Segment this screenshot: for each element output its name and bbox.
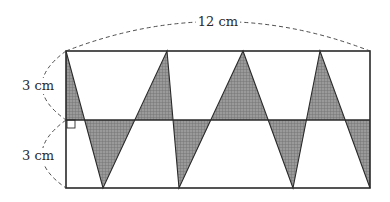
lower-height-label: 3 cm	[22, 148, 54, 163]
shaded-triangle-lower-3	[268, 120, 307, 188]
shaded-triangle-upper-4	[307, 51, 346, 120]
geometry-figure: 12 cm 3 cm 3 cm	[0, 0, 390, 202]
width-label: 12 cm	[198, 14, 238, 29]
shaded-triangle-upper-3	[211, 51, 268, 120]
upper-height-label: 3 cm	[22, 78, 54, 93]
shaded-triangle-lower-1	[85, 120, 136, 188]
shaded-triangle-upper-2	[135, 51, 173, 120]
shaded-upper-triangles	[66, 51, 345, 120]
shaded-lower-triangles	[85, 120, 371, 188]
shaded-triangle-lower-2	[173, 120, 211, 188]
right-angle-marker	[67, 120, 75, 128]
